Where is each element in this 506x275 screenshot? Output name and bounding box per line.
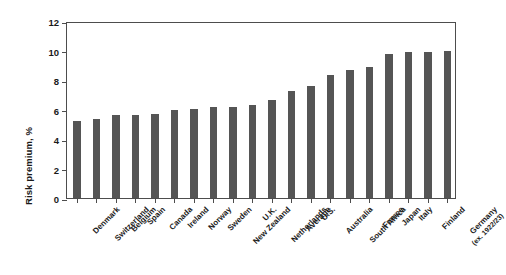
y-tick: 8: [7, 76, 67, 88]
x-tick-label: Germany(ex. 1922/23): [463, 205, 505, 247]
bar: [229, 107, 237, 198]
bar: [444, 51, 452, 198]
bar: [288, 91, 296, 198]
bar: [190, 109, 198, 198]
bar: [268, 100, 276, 198]
bar: [405, 52, 413, 198]
y-tick-label: 6: [54, 106, 59, 118]
y-tick: 2: [7, 165, 67, 177]
bar: [171, 110, 179, 199]
y-tick: 10: [7, 47, 67, 59]
bar: [424, 52, 432, 198]
y-tick: 6: [7, 106, 67, 118]
y-tick: 4: [7, 135, 67, 147]
y-tick: 12: [7, 17, 67, 29]
y-tick-label: 12: [48, 17, 59, 29]
bar: [366, 67, 374, 198]
y-tick-label: 8: [54, 76, 59, 88]
bar: [73, 121, 81, 198]
bar: [307, 86, 315, 198]
y-tick-label: 10: [48, 47, 59, 59]
bar: [151, 114, 159, 198]
y-tick: 0: [7, 194, 67, 206]
x-tick-sublabel: (ex. 1922/23): [470, 211, 506, 247]
y-tick-label: 4: [54, 135, 59, 147]
y-tick-label: 0: [54, 194, 59, 206]
y-tick-label: 2: [54, 165, 59, 177]
x-axis-labels: DenmarkSwitzerlandBelgiumSpainCanadaIrel…: [66, 201, 456, 275]
bar: [132, 115, 140, 198]
plot-area: 024681012: [66, 22, 456, 199]
bar: [93, 119, 101, 198]
bar: [327, 75, 335, 198]
bar: [249, 105, 257, 198]
bar: [346, 70, 354, 198]
bar: [385, 54, 393, 198]
bars-layer: [67, 23, 455, 198]
x-tick-label: Australia: [344, 205, 375, 236]
x-tick-label: Finland: [440, 205, 466, 231]
bar: [210, 107, 218, 198]
bar: [112, 115, 120, 198]
